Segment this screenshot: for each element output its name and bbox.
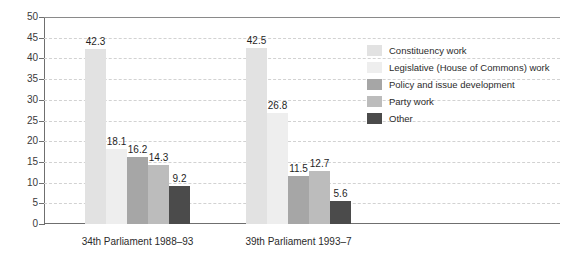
bar-value-label: 26.8 [268, 100, 287, 111]
y-axis-tick [39, 38, 44, 39]
bar-value-label: 42.3 [86, 36, 105, 47]
bar-value-label: 18.1 [107, 136, 126, 147]
bar-slot: 18.1 [106, 17, 127, 224]
bar-chart: 50454035302520151050 Per cent 42.318.116… [0, 0, 574, 262]
y-axis-tick-label: 35 [0, 74, 38, 84]
bar[interactable]: 5.6 [330, 201, 351, 224]
bar[interactable]: 26.8 [267, 113, 288, 224]
y-axis-tick [39, 100, 44, 101]
bar-slot: 42.3 [85, 17, 106, 224]
y-axis-tick [39, 141, 44, 142]
legend-item[interactable]: Other [367, 110, 550, 126]
legend: Constituency workLegislative (House of C… [367, 42, 550, 127]
legend-swatch [367, 45, 382, 56]
y-axis-tick-label: 30 [0, 95, 38, 105]
y-axis-tick-label: 40 [0, 53, 38, 63]
bar-value-label: 16.2 [128, 144, 147, 155]
y-axis-tick-label: 50 [0, 12, 38, 22]
y-axis-tick-label: 20 [0, 136, 38, 146]
y-axis-tick-label: 25 [0, 116, 38, 126]
bar-slot: 11.5 [288, 17, 309, 224]
y-axis-tick [39, 79, 44, 80]
bar-value-label: 12.7 [310, 158, 329, 169]
bar-value-label: 5.6 [334, 188, 348, 199]
legend-item[interactable]: Legislative (House of Commons) work [367, 59, 550, 75]
bar-slot: 5.6 [330, 17, 351, 224]
legend-swatch [367, 62, 382, 73]
y-axis-title: Per cent [0, 84, 1, 119]
bar-slot: 14.3 [148, 17, 169, 224]
bar-slot: 9.2 [169, 17, 190, 224]
bar[interactable]: 12.7 [309, 171, 330, 224]
legend-label: Policy and issue development [389, 79, 515, 90]
legend-item[interactable]: Policy and issue development [367, 76, 550, 92]
y-axis-tick [39, 224, 44, 225]
bar-slot: 12.7 [309, 17, 330, 224]
bar[interactable]: 42.3 [85, 49, 106, 224]
legend-label: Legislative (House of Commons) work [389, 62, 550, 73]
legend-label: Constituency work [389, 45, 467, 56]
bar-slot: 42.5 [246, 17, 267, 224]
legend-swatch [367, 113, 382, 124]
bar[interactable]: 18.1 [106, 149, 127, 224]
bar[interactable]: 9.2 [169, 186, 190, 224]
bar-value-label: 11.5 [289, 163, 308, 174]
y-axis-tick [39, 162, 44, 163]
y-axis-tick-label: 0 [0, 219, 38, 229]
bar-slot: 26.8 [267, 17, 288, 224]
bar[interactable]: 42.5 [246, 48, 267, 224]
y-axis-tick [39, 183, 44, 184]
y-axis-tick-label: 5 [0, 198, 38, 208]
bar-value-label: 14.3 [149, 152, 168, 163]
y-axis-tick-label: 45 [0, 33, 38, 43]
bar-group: 42.318.116.214.39.2 [85, 17, 190, 224]
y-axis-tick [39, 121, 44, 122]
y-axis-tick [39, 17, 44, 18]
bar-group: 42.526.811.512.75.6 [246, 17, 351, 224]
y-axis-tick-label: 15 [0, 157, 38, 167]
y-axis-tick [39, 203, 44, 204]
x-axis-category-label: 34th Parliament 1988–93 [82, 236, 194, 247]
bar-value-label: 9.2 [173, 173, 187, 184]
bar-value-label: 42.5 [247, 35, 266, 46]
bar[interactable]: 11.5 [288, 176, 309, 224]
legend-item[interactable]: Constituency work [367, 42, 550, 58]
y-axis-tick [39, 58, 44, 59]
legend-swatch [367, 96, 382, 107]
legend-item[interactable]: Party work [367, 93, 550, 109]
x-axis-category-label: 39th Parliament 1993–7 [245, 236, 351, 247]
legend-label: Party work [389, 96, 434, 107]
y-axis-tick-labels: 50454035302520151050 [0, 17, 38, 224]
y-axis-tick-label: 10 [0, 178, 38, 188]
legend-label: Other [389, 113, 413, 124]
bar[interactable]: 16.2 [127, 157, 148, 224]
bar-slot: 16.2 [127, 17, 148, 224]
legend-swatch [367, 79, 382, 90]
bar[interactable]: 14.3 [148, 165, 169, 224]
